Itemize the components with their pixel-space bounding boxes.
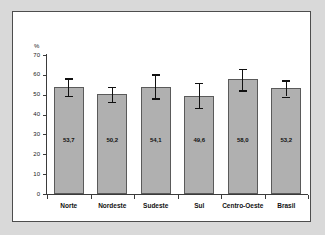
- error-bar-cap-lower: [282, 97, 290, 98]
- bar-value-label: 49,6: [183, 137, 215, 144]
- error-bar-cap-upper: [239, 69, 247, 70]
- y-tick-mark: [43, 134, 47, 135]
- error-bar-cap-upper: [282, 80, 290, 81]
- category-label: Centro-Oeste: [221, 202, 265, 210]
- error-bar-line: [286, 80, 287, 96]
- error-bar-cap-lower: [195, 108, 203, 109]
- plot-area: % 706050403020100 53,750,254,149,658,053…: [13, 12, 310, 221]
- chart-frame: % 706050403020100 53,750,254,149,658,053…: [12, 11, 311, 222]
- error-bar-cap-upper: [152, 74, 160, 75]
- x-tick-mark: [91, 195, 92, 199]
- category-label: Norte: [47, 202, 91, 210]
- x-tick-mark: [178, 195, 179, 199]
- category-label: Brasil: [265, 202, 309, 210]
- y-tick-label: 70: [18, 52, 40, 59]
- bar-value-label: 50,2: [96, 137, 128, 144]
- bar-value-label: 53,7: [53, 137, 85, 144]
- x-tick-mark: [265, 195, 266, 199]
- y-tick-mark: [43, 55, 47, 56]
- y-tick-mark: [43, 115, 47, 116]
- bar-value-label: 54,1: [140, 137, 172, 144]
- y-tick-label: 50: [18, 91, 40, 98]
- y-tick-mark: [43, 75, 47, 76]
- x-tick-mark: [134, 195, 135, 199]
- y-tick-mark: [43, 174, 47, 175]
- screenshot-canvas: % 706050403020100 53,750,254,149,658,053…: [0, 0, 325, 235]
- bar: [97, 94, 127, 194]
- bar-value-label: 53,2: [270, 137, 302, 144]
- y-tick-mark: [43, 154, 47, 155]
- y-tick-label: 30: [18, 131, 40, 138]
- error-bar-line: [155, 74, 156, 98]
- error-bar-cap-upper: [65, 78, 73, 79]
- error-bar-cap-lower: [152, 98, 160, 99]
- y-tick-label: 0: [18, 191, 40, 198]
- y-tick-label: 10: [18, 171, 40, 178]
- error-bar-line: [242, 69, 243, 90]
- y-tick-label: 40: [18, 111, 40, 118]
- error-bar-line: [68, 78, 69, 95]
- y-axis-title: %: [34, 43, 39, 50]
- error-bar-line: [199, 83, 200, 108]
- y-tick-mark: [43, 95, 47, 96]
- y-tick-label: 60: [18, 71, 40, 78]
- x-tick-mark: [308, 195, 309, 199]
- error-bar-cap-upper: [195, 83, 203, 84]
- error-bar-cap-lower: [239, 90, 247, 91]
- error-bar-cap-upper: [108, 87, 116, 88]
- x-tick-mark: [47, 195, 48, 199]
- x-tick-mark: [221, 195, 222, 199]
- category-label: Sul: [178, 202, 222, 210]
- y-tick-label: 20: [18, 151, 40, 158]
- error-bar-cap-lower: [108, 102, 116, 103]
- error-bar-line: [112, 87, 113, 102]
- category-label: Nordeste: [91, 202, 135, 210]
- error-bar-cap-lower: [65, 96, 73, 97]
- bar-value-label: 58,0: [227, 137, 259, 144]
- bar: [184, 96, 214, 194]
- category-label: Sudeste: [134, 202, 178, 210]
